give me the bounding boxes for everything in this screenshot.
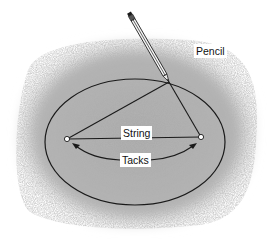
tacks-label: Tacks: [120, 153, 151, 167]
tack-left-icon: [64, 136, 69, 141]
string-label: String: [121, 126, 152, 140]
pencil-label: Pencil: [194, 44, 227, 58]
ellipse-diagram: [0, 0, 270, 248]
tack-right-icon: [198, 134, 203, 139]
